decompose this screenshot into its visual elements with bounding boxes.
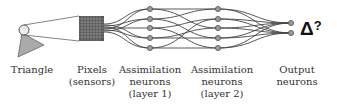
label-line: (sensors) bbox=[69, 76, 115, 88]
connections-pixels-layer1 bbox=[104, 9, 150, 48]
label-output: Output neurons bbox=[276, 64, 317, 88]
label-line: (layer 1) bbox=[119, 88, 181, 100]
connections-layer2-output bbox=[218, 9, 291, 48]
layer2-neurons bbox=[215, 6, 220, 50]
label-layer1: Assimilation neurons (layer 1) bbox=[119, 64, 181, 100]
label-line: Assimilation bbox=[191, 64, 253, 76]
label-line: Triangle bbox=[11, 64, 54, 76]
label-line: neurons bbox=[191, 76, 253, 88]
label-line: Pixels bbox=[69, 64, 115, 76]
connections-layer1-layer2 bbox=[150, 9, 218, 48]
neural-network-diagram: Δ? Triangle Pixels (sensors) Assimilatio… bbox=[0, 0, 337, 106]
output-neurons bbox=[288, 20, 293, 35]
label-line: Assimilation bbox=[119, 64, 181, 76]
label-triangle: Triangle bbox=[11, 64, 54, 76]
delta-question-symbol: Δ? bbox=[300, 18, 322, 40]
pixel-sensor-grid bbox=[79, 16, 104, 41]
question-mark: ? bbox=[314, 18, 322, 33]
label-line: neurons bbox=[119, 76, 181, 88]
label-line: (layer 2) bbox=[191, 88, 253, 100]
label-pixels: Pixels (sensors) bbox=[69, 64, 115, 88]
eye-icon bbox=[19, 25, 29, 35]
layer1-neurons bbox=[147, 6, 152, 50]
label-layer2: Assimilation neurons (layer 2) bbox=[191, 64, 253, 100]
label-line: Output bbox=[276, 64, 317, 76]
label-line: neurons bbox=[276, 76, 317, 88]
delta-icon: Δ bbox=[300, 18, 314, 39]
